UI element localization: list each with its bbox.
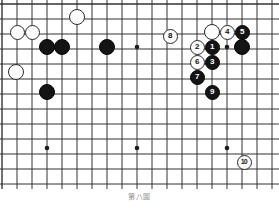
white-stone[interactable] [69, 9, 85, 25]
move-stone-3[interactable]: 3 [205, 55, 220, 70]
figure-caption-text: 第八圖 [128, 191, 151, 201]
move-stone-2[interactable]: 2 [190, 40, 205, 55]
move-number: 8 [168, 32, 172, 40]
white-stone[interactable] [204, 24, 220, 40]
white-stone[interactable] [8, 64, 24, 80]
black-stone[interactable] [39, 39, 55, 55]
move-number: 4 [225, 28, 229, 36]
black-stone[interactable] [54, 39, 70, 55]
move-number: 10 [241, 158, 247, 165]
go-board-figure: 84521637910 第八圖 [0, 0, 279, 208]
move-number: 5 [240, 28, 244, 36]
move-stone-9[interactable]: 9 [205, 85, 220, 100]
move-stone-1[interactable]: 1 [205, 40, 220, 55]
white-stone[interactable] [10, 25, 25, 40]
move-stone-8[interactable]: 8 [163, 29, 178, 44]
black-stone[interactable] [99, 39, 115, 55]
move-number: 2 [195, 43, 199, 51]
move-number: 3 [210, 58, 214, 66]
figure-caption: 第八圖 [0, 189, 279, 208]
move-stone-7[interactable]: 7 [190, 70, 205, 85]
move-stone-4[interactable]: 4 [220, 25, 235, 40]
white-stone[interactable] [25, 25, 40, 40]
move-stone-5[interactable]: 5 [235, 25, 250, 40]
move-number: 6 [195, 58, 199, 66]
move-stone-10[interactable]: 10 [237, 155, 252, 170]
black-stone[interactable] [39, 84, 55, 100]
go-board[interactable]: 84521637910 [0, 0, 279, 189]
move-number: 1 [210, 43, 214, 51]
move-number: 9 [210, 88, 214, 96]
move-number: 7 [195, 73, 199, 81]
black-stone[interactable] [234, 39, 250, 55]
move-stone-6[interactable]: 6 [190, 55, 205, 70]
